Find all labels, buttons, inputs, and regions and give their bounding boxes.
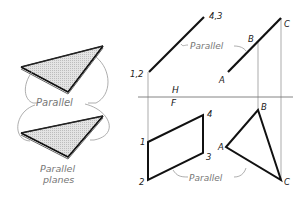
label-a-top: A [218, 75, 225, 85]
parallel-leader-top-right [234, 46, 246, 51]
parallel-leader-top-left [181, 44, 188, 46]
label-1: 1 [140, 137, 145, 147]
label-2: 2 [139, 177, 144, 187]
label-4-3: 4,3 [209, 11, 223, 21]
front-view-triangle [226, 110, 281, 180]
label-3: 3 [206, 152, 211, 162]
pictorial-planes: Parallel Parallel planes [18, 46, 110, 185]
parallel-leader-front-right [234, 168, 246, 177]
orthographic-views: H F Parallel 1,2 4,3 A B C Parallel 1 2 … [130, 11, 293, 187]
parallel-label-left: Parallel [36, 97, 73, 108]
parallel-label-front: Parallel [189, 173, 223, 183]
label-c-top: C [284, 19, 290, 29]
upper-plane [21, 46, 103, 94]
label-f: F [171, 98, 177, 108]
parallel-planes-diagram: Parallel Parallel planes H F Parallel 1,… [0, 0, 306, 197]
label-1-2: 1,2 [130, 69, 144, 79]
label-h: H [172, 85, 179, 95]
caption-line1: Parallel [40, 163, 75, 174]
label-b-front: B [261, 102, 267, 112]
parallel-label-top: Parallel [190, 41, 224, 51]
parallel-leader-front-left [173, 170, 188, 177]
front-view-parallelogram [148, 115, 203, 180]
label-a-front: A [217, 142, 224, 152]
lower-plane [21, 116, 103, 159]
label-c-front: C [284, 177, 290, 187]
edge-view-plane-abc [228, 18, 281, 72]
label-b-top: B [248, 34, 254, 44]
label-4: 4 [207, 109, 212, 119]
caption-line2: planes [42, 174, 74, 185]
